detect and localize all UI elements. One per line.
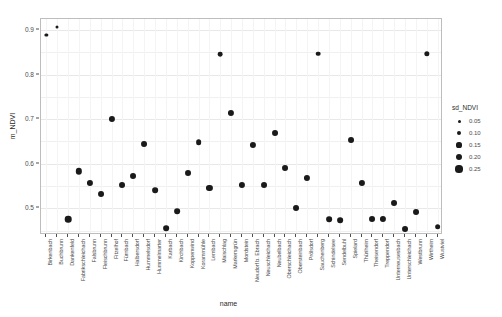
data-point — [337, 217, 343, 223]
x-tick-label: Fitzelhof — [113, 239, 119, 259]
x-tick-mark — [404, 234, 405, 237]
gridline-vertical — [275, 19, 276, 233]
x-tick-label: Karbach — [167, 239, 173, 259]
gridline-vertical — [68, 19, 69, 233]
legend-dot-icon — [457, 131, 461, 135]
plot-panel — [40, 18, 442, 234]
legend-item[interactable]: 0.05 — [452, 115, 502, 127]
x-tick-label: Treppendorf — [384, 239, 390, 268]
gridline-vertical — [46, 19, 47, 233]
x-tick-label: Spielard — [352, 239, 358, 258]
x-tick-mark — [284, 234, 285, 237]
legend-label: 0.20 — [469, 154, 481, 160]
y-tick-label: 0.8 — [25, 70, 34, 77]
x-tick-label: Lembach — [210, 239, 216, 261]
gridline-vertical — [285, 19, 286, 233]
x-tick-label: Kirchbach — [178, 239, 184, 263]
x-tick-mark — [111, 234, 112, 237]
data-point — [293, 205, 299, 211]
data-point — [196, 139, 202, 145]
gridline-vertical — [90, 19, 91, 233]
legend-dot-icon — [458, 120, 461, 123]
gridline-vertical — [133, 19, 134, 233]
legend-item[interactable]: 0.20 — [452, 151, 502, 163]
x-tick-label: Maischlag — [221, 239, 227, 263]
x-tick-mark — [317, 234, 318, 237]
gridline-vertical — [383, 19, 384, 233]
data-point — [65, 216, 72, 223]
data-point — [326, 216, 332, 222]
x-tick-mark — [230, 234, 231, 237]
x-tick-label: Korammühle — [200, 239, 206, 269]
x-tick-label: Oberschleichach — [286, 239, 292, 278]
data-point — [120, 182, 126, 188]
x-tick-mark — [165, 234, 166, 237]
legend-item[interactable]: 0.15 — [452, 139, 502, 151]
x-tick-mark — [274, 234, 275, 237]
x-tick-mark — [252, 234, 253, 237]
gridline-vertical — [296, 19, 297, 233]
gridline-vertical — [57, 19, 58, 233]
y-tick-label: 0.6 — [25, 159, 34, 166]
gridline-vertical — [79, 19, 80, 233]
legend-key — [452, 151, 466, 163]
gridline-vertical — [188, 19, 189, 233]
data-point — [185, 170, 191, 176]
x-tick-label: Thüriheim — [363, 239, 369, 263]
gridline-vertical — [438, 19, 439, 233]
gridline-vertical — [307, 19, 308, 233]
legend-key — [452, 163, 466, 175]
gridline-vertical — [416, 19, 417, 233]
gridline-vertical — [155, 19, 156, 233]
y-tick-mark — [36, 73, 39, 74]
x-tick-label: Fürnbach — [123, 239, 129, 261]
x-tick-mark — [121, 234, 122, 237]
y-tick-mark — [36, 118, 39, 119]
x-tick-mark — [263, 234, 264, 237]
data-point — [435, 224, 441, 230]
x-tick-mark — [198, 234, 199, 237]
x-axis-title-text: name — [220, 300, 238, 307]
y-tick-mark — [36, 29, 39, 30]
x-tick-label: Fabrikschleichach — [80, 239, 86, 281]
x-tick-label: Birkenbach — [47, 239, 53, 265]
x-tick-label: Schindelsee — [330, 239, 336, 268]
data-point — [228, 110, 234, 116]
x-tick-label: Buchbrunn — [58, 239, 64, 265]
x-tick-mark — [78, 234, 79, 237]
y-axis-title: m_NDVI — [9, 76, 16, 176]
x-tick-label: Wirtheim — [428, 239, 434, 260]
x-tick-label: Neudorf b. Ebrach — [254, 239, 260, 282]
data-point — [109, 116, 115, 122]
x-tick-label: Unterneusesbach — [395, 239, 401, 281]
gridline-vertical — [253, 19, 254, 233]
x-tick-mark — [350, 234, 351, 237]
legend-item[interactable]: 0.10 — [452, 127, 502, 139]
data-point — [380, 215, 386, 221]
data-point — [369, 216, 375, 222]
x-tick-label: Falsbrunn — [91, 239, 97, 263]
x-tick-label: Hummelmarter — [156, 239, 162, 274]
x-tick-mark — [132, 234, 133, 237]
x-tick-mark — [415, 234, 416, 237]
gridline-vertical — [144, 19, 145, 233]
legend-title: sd_NDVI — [452, 104, 502, 111]
y-tick-label: 0.5 — [25, 204, 34, 211]
data-point — [206, 185, 212, 191]
gridline-vertical — [372, 19, 373, 233]
x-tick-mark — [100, 234, 101, 237]
x-tick-mark — [56, 234, 57, 237]
y-tick-mark — [36, 207, 39, 208]
x-tick-label: Wustviel — [439, 239, 445, 259]
legend-key — [452, 127, 466, 139]
gridline-vertical — [329, 19, 330, 233]
x-tick-mark — [393, 234, 394, 237]
legend-item[interactable]: 0.25 — [452, 163, 502, 175]
x-tick-mark — [187, 234, 188, 237]
data-point — [272, 130, 278, 136]
data-point — [76, 168, 82, 174]
x-tick-label: Neuschleichach — [265, 239, 271, 276]
legend-key — [452, 139, 466, 151]
legend-label: 0.05 — [469, 118, 481, 124]
x-tick-label: Fleischbrunn — [102, 239, 108, 269]
